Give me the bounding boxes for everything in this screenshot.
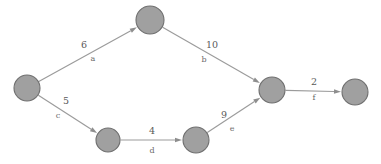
- edge-weight-label: 6: [81, 39, 87, 50]
- edge-weight-label: 4: [149, 125, 155, 136]
- edge-name-label: d: [149, 146, 154, 155]
- edge-name-label: e: [230, 124, 235, 133]
- edge-name-label: b: [201, 55, 206, 64]
- arrow-head-icon: [334, 89, 341, 94]
- arrow-head-icon: [175, 138, 182, 143]
- arrow-head-icon: [253, 78, 260, 83]
- arrow-head-icon: [130, 27, 137, 32]
- graph-svg: 6a10b5c4d9e2f: [0, 0, 381, 164]
- graph-node[interactable]: [96, 128, 120, 152]
- edge-name-label: f: [313, 93, 317, 102]
- edge-weight-label: 2: [311, 76, 317, 87]
- graph-edge: [121, 138, 183, 143]
- graph-node[interactable]: [136, 6, 164, 34]
- arrow-head-icon: [253, 98, 260, 104]
- graph-node[interactable]: [183, 127, 209, 153]
- edge-weight-label: 5: [63, 95, 69, 106]
- edge-line: [286, 90, 335, 91]
- arrow-head-icon: [90, 127, 97, 133]
- edge-weight-label: 9: [221, 109, 227, 120]
- graph-edge: [39, 27, 137, 81]
- graph-node[interactable]: [259, 77, 285, 103]
- edge-name-label: a: [91, 54, 96, 63]
- edge-weight-label: 10: [206, 39, 218, 50]
- graph-node[interactable]: [14, 75, 40, 101]
- graph-node[interactable]: [342, 79, 368, 105]
- graph-canvas: 6a10b5c4d9e2f: [0, 0, 381, 164]
- edge-line: [163, 27, 254, 79]
- graph-edge: [163, 27, 260, 83]
- edge-name-label: c: [56, 111, 61, 120]
